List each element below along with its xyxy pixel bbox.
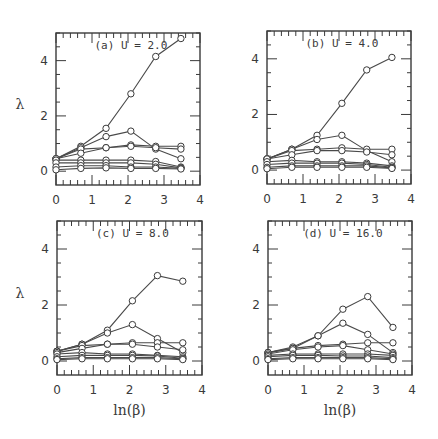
data-point-marker (154, 272, 160, 278)
series-line (268, 359, 393, 360)
data-point-marker (364, 149, 370, 155)
panel-d: 01234024(d) U = 16.0ln(β) (252, 221, 415, 418)
x-tick-label: 3 (160, 193, 168, 207)
series-line (57, 276, 183, 352)
data-point-marker (129, 321, 135, 327)
data-point-marker (178, 35, 184, 41)
data-point-marker (128, 143, 134, 149)
data-point-marker (315, 356, 321, 362)
series-line (56, 146, 181, 158)
data-series (53, 128, 184, 162)
data-point-marker (265, 356, 271, 362)
data-point-marker (103, 125, 109, 131)
data-point-marker (365, 331, 371, 337)
data-point-marker (128, 128, 134, 134)
data-point-marker (389, 152, 395, 158)
data-point-marker (365, 293, 371, 299)
y-axis-label: λ (16, 285, 25, 301)
x-tick-label: 1 (89, 383, 97, 397)
x-axis-label: ln(β) (113, 402, 146, 418)
y-tick-label: 4 (40, 54, 48, 68)
data-point-marker (314, 164, 320, 170)
y-tick-label: 0 (252, 354, 260, 368)
data-point-marker (180, 278, 186, 284)
y-tick-label: 0 (41, 354, 49, 368)
series-line (267, 57, 392, 159)
x-tick-label: 4 (198, 383, 206, 397)
data-point-marker (103, 144, 109, 150)
y-tick-label: 2 (41, 298, 49, 312)
panel-b: 01234024(b) U = 4.0 (251, 31, 414, 206)
x-tick-label: 4 (407, 192, 415, 206)
x-tick-label: 2 (124, 193, 132, 207)
x-tick-label: 4 (196, 193, 204, 207)
data-point-marker (153, 144, 159, 150)
data-point-marker (390, 324, 396, 330)
data-series (54, 340, 186, 355)
data-series (54, 272, 186, 354)
data-point-marker (264, 166, 270, 172)
data-point-marker (339, 147, 345, 153)
data-point-marker (154, 344, 160, 350)
x-tick-label: 3 (372, 383, 380, 397)
x-tick-label: 3 (371, 192, 379, 206)
data-point-marker (103, 165, 109, 171)
data-point-marker (53, 167, 59, 173)
data-point-marker (340, 306, 346, 312)
data-point-marker (339, 164, 345, 170)
data-point-marker (389, 54, 395, 60)
y-tick-label: 2 (40, 109, 48, 123)
data-point-marker (340, 356, 346, 362)
data-point-marker (390, 340, 396, 346)
data-point-marker (390, 356, 396, 362)
data-series (53, 35, 184, 162)
y-tick-label: 4 (252, 242, 260, 256)
data-point-marker (129, 356, 135, 362)
panel-c: 01234024(c) U = 8.0λln(β) (16, 221, 206, 418)
y-tick-label: 2 (251, 107, 259, 121)
y-axis-label: λ (16, 96, 25, 112)
data-point-marker (153, 165, 159, 171)
x-tick-label: 3 (162, 383, 170, 397)
data-series (265, 320, 396, 356)
data-point-marker (129, 341, 135, 347)
data-point-marker (153, 53, 159, 59)
panel-title: (a) U = 2.0 (94, 39, 167, 52)
data-point-marker (78, 150, 84, 156)
data-point-marker (180, 356, 186, 362)
data-point-marker (104, 330, 110, 336)
data-point-marker (104, 341, 110, 347)
x-tick-label: 2 (126, 383, 134, 397)
data-point-marker (178, 156, 184, 162)
data-point-marker (365, 340, 371, 346)
data-point-marker (389, 165, 395, 171)
data-point-marker (364, 67, 370, 73)
data-point-marker (290, 356, 296, 362)
series-line (56, 39, 181, 159)
x-tick-label: 1 (300, 383, 308, 397)
data-point-marker (79, 356, 85, 362)
data-point-marker (178, 166, 184, 172)
panel-title: (d) U = 16.0 (303, 227, 382, 240)
data-point-marker (180, 347, 186, 353)
x-tick-label: 2 (335, 192, 343, 206)
data-point-marker (315, 333, 321, 339)
series-line (57, 325, 183, 353)
series-line (268, 297, 393, 353)
x-tick-label: 0 (263, 192, 271, 206)
x-tick-label: 1 (88, 193, 96, 207)
data-point-marker (340, 320, 346, 326)
data-point-marker (54, 356, 60, 362)
data-series (54, 321, 186, 355)
x-tick-label: 0 (53, 383, 61, 397)
x-tick-label: 0 (264, 383, 272, 397)
panel-group: 01234024(a) U = 2.0λ01234024(b) U = 4.00… (16, 31, 416, 418)
data-point-marker (365, 356, 371, 362)
data-point-marker (364, 164, 370, 170)
x-tick-label: 1 (299, 192, 307, 206)
x-tick-label: 2 (336, 383, 344, 397)
data-point-marker (289, 164, 295, 170)
data-point-marker (339, 132, 345, 138)
x-tick-label: 4 (408, 383, 416, 397)
data-series (264, 54, 395, 162)
